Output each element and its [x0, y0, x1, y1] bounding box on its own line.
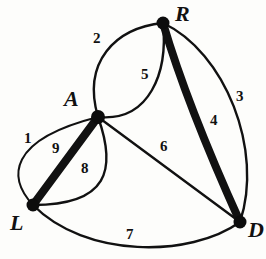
edges-group — [18, 23, 247, 247]
edge-label-5: 5 — [141, 67, 149, 82]
edge-label-2: 2 — [93, 31, 101, 46]
graph-vertex-A — [91, 110, 105, 124]
edge-label-1: 1 — [24, 131, 32, 146]
graph-canvas — [0, 0, 266, 259]
graph-vertex-L — [27, 199, 40, 212]
edge-label-7: 7 — [126, 227, 134, 242]
graph-vertex-R — [157, 17, 170, 30]
graph-edge-5 — [98, 23, 164, 117]
edge-label-4: 4 — [210, 113, 218, 128]
graph-edge-7 — [33, 205, 240, 247]
edge-label-6: 6 — [160, 139, 168, 154]
graph-vertex-D — [234, 216, 247, 229]
vertex-label-D: D — [248, 219, 264, 241]
vertex-label-L: L — [10, 212, 23, 234]
graph-edge-2 — [94, 23, 163, 117]
graph-figure: RALD123456789 — [0, 0, 266, 259]
vertex-label-A: A — [64, 88, 79, 110]
edge-label-9: 9 — [52, 141, 60, 156]
vertex-label-R: R — [175, 3, 190, 25]
edge-label-8: 8 — [81, 161, 89, 176]
edge-label-3: 3 — [236, 89, 244, 104]
